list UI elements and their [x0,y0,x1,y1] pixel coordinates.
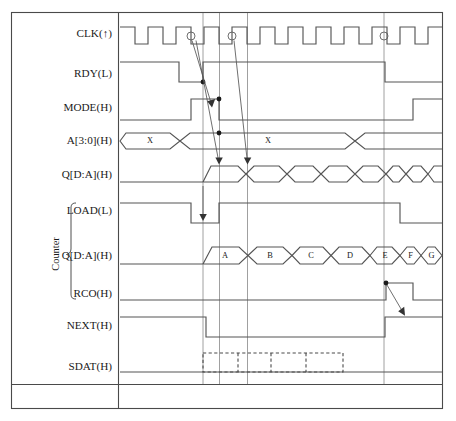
arrow-head-rco-to-next [398,307,405,316]
waveform-rdy [120,62,442,84]
signal-label-load: LOAD(L) [67,204,113,217]
mode-causality-dot [217,97,222,102]
q-counter-label-A: A [222,251,228,260]
waveform-q-counter: A B C D E F G [120,247,442,264]
q-counter-label-D: D [347,251,353,260]
q-counter-label-F: F [408,251,413,260]
waveform-addr: X X [120,131,442,149]
q-top-seg-2 [246,166,287,182]
signal-label-rdy: RDY(L) [74,67,112,80]
signal-label-sdat: SDAT(H) [68,360,112,373]
rco-causality-dot [384,281,389,286]
next-trace [120,317,442,337]
rdy-trace [120,62,442,82]
load-trace [120,203,442,223]
timing-diagram: CLK(↑) RDY(L) MODE(H) A[3:0](H) Q[D:A](H… [0,0,456,421]
addr-segment-label-2: X [265,136,271,145]
addr-segment-label-0: X [147,136,153,145]
group-label-counter: Counter [50,237,61,271]
waveform-sdat [120,353,442,372]
mode-trace [120,99,442,120]
q-counter-label-C: C [308,251,314,260]
arrow-clk2-to-q-next [234,41,248,164]
q-top-seg-3 [287,166,321,182]
q-counter-label-G: G [428,251,434,260]
q-top-seg-4 [321,166,355,182]
arrow-clk1-to-q-load [196,41,219,164]
q-top-seg-5 [355,166,386,182]
sdat-dashed-box [203,353,343,372]
signal-label-rco: RCO(H) [73,287,112,300]
waveform-mode [120,97,442,120]
causality-arrows [192,41,405,316]
q-counter-label-B: B [267,251,273,260]
sdat-dashed-region [203,353,343,372]
arrow-head-clk2-to-q-next [244,157,251,164]
q-counter-label-E: E [382,251,387,260]
q-top-seg-7 [406,166,428,182]
rco-trace [120,283,442,300]
waveform-load [120,203,442,223]
signal-label-addr: A[3:0](H) [67,134,113,147]
waveform-clk [120,27,442,44]
waveform-q-top [120,166,442,182]
q-top-seg-6 [386,166,406,182]
cursor-lines [203,13,384,384]
arrow-head-clk1-to-q-load [215,157,222,164]
addr-trace-3 [355,133,442,149]
signal-labels: CLK(↑) RDY(L) MODE(H) A[3:0](H) Q[D:A](H… [62,27,113,373]
signal-label-mode: MODE(H) [64,101,113,114]
signal-label-q-top: Q[D:A](H) [62,168,113,181]
signal-label-clk: CLK(↑) [77,27,113,40]
waveform-next [120,317,442,337]
q-top-seg-8 [428,166,442,182]
addr-causality-dot [217,131,222,136]
timing-diagram-canvas: CLK(↑) RDY(L) MODE(H) A[3:0](H) Q[D:A](H… [0,0,456,421]
q-top-seg-1 [203,166,246,182]
signal-label-next: NEXT(H) [67,319,113,332]
clk-trace [120,27,442,44]
arrow-head-to-load-low [199,214,206,221]
signal-label-q-counter: Q[D:A](H) [62,249,113,262]
